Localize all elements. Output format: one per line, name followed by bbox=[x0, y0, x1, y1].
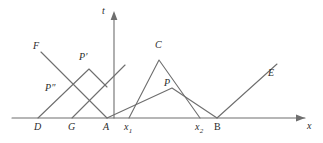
axis-label-x1-subscript: 1 bbox=[129, 127, 133, 135]
curve-A-P-B bbox=[107, 88, 217, 118]
curve-label-E: E bbox=[268, 68, 274, 78]
axis-label-x2-subscript: 2 bbox=[200, 127, 204, 135]
curve-label-P-double-prime: P″ bbox=[45, 83, 56, 93]
curve-label-P: P bbox=[164, 78, 170, 88]
x-axis-label: x bbox=[307, 121, 312, 131]
curve-x1-C-x2 bbox=[129, 60, 200, 118]
t-axis-label: t bbox=[102, 6, 105, 16]
curve-label-C: C bbox=[155, 40, 162, 50]
curve-label-F: F bbox=[33, 41, 39, 51]
diagram-canvas bbox=[0, 0, 323, 143]
axis-label-G: G bbox=[68, 122, 75, 132]
axis-label-A: A bbox=[103, 122, 109, 132]
axis-label-x1: x1 bbox=[124, 122, 132, 135]
t-axis-arrowhead bbox=[111, 11, 118, 20]
x-axis-arrowhead bbox=[296, 115, 305, 122]
axis-label-B: B bbox=[214, 122, 221, 132]
curve-label-P-prime: P′ bbox=[79, 52, 88, 62]
axis-label-x2: x2 bbox=[195, 122, 203, 135]
axis-label-D: D bbox=[34, 122, 41, 132]
figure-container: x t D G A x1 x2 B F P″ P′ C P E bbox=[0, 0, 323, 143]
